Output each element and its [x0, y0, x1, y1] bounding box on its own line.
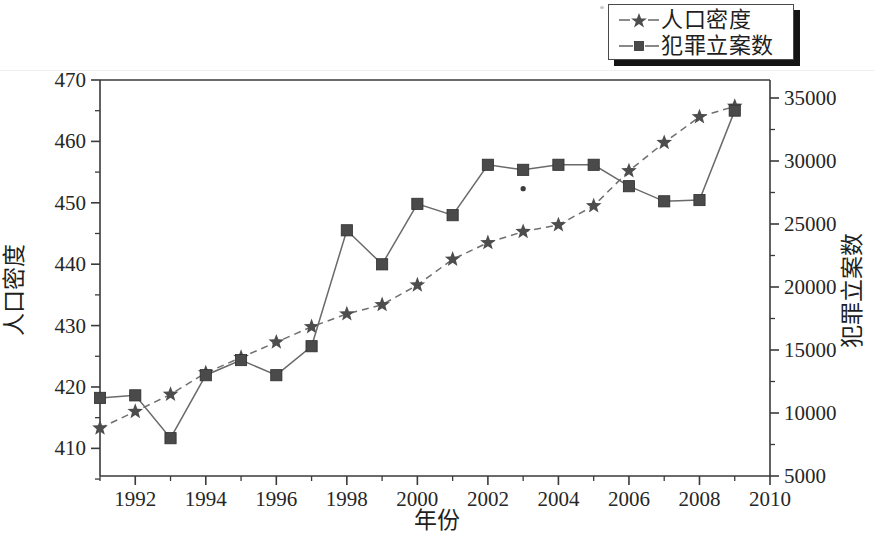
x-tick-label: 2010 — [749, 487, 791, 511]
data-point-square — [729, 105, 740, 116]
data-point-square — [341, 225, 352, 236]
data-point-square — [588, 159, 599, 170]
x-tick-label: 1996 — [255, 487, 297, 511]
series-line-crime-cases — [100, 111, 735, 439]
y-axis-title-right: 犯罪立案数 — [840, 233, 865, 348]
y-tick-label: 460 — [55, 129, 87, 153]
axes — [100, 80, 770, 476]
stray-dot — [521, 186, 526, 191]
y2-tick-label: 30000 — [784, 149, 837, 173]
data-point-square — [623, 181, 634, 192]
data-point-square — [553, 159, 564, 170]
data-point-square — [377, 259, 388, 270]
data-point-square — [694, 194, 705, 205]
data-point-star — [656, 134, 672, 149]
x-tick-label: 2002 — [467, 487, 509, 511]
data-point-star — [163, 386, 179, 401]
y2-tick-label: 5000 — [784, 464, 826, 488]
data-point-square — [200, 370, 211, 381]
y2-tick-label: 35000 — [784, 86, 837, 110]
data-point-square — [412, 198, 423, 209]
data-point-square — [482, 159, 493, 170]
dual-axis-line-chart: 4104204304404504604705000100001500020000… — [0, 0, 874, 536]
y-tick-label: 410 — [55, 436, 87, 460]
data-point-square — [518, 164, 529, 175]
axis-tick-labels: 4104204304404504604705000100001500020000… — [55, 68, 837, 511]
data-point-square — [130, 390, 141, 401]
data-point-star — [127, 403, 143, 418]
x-tick-label: 1992 — [114, 487, 156, 511]
legend: 人口密度 犯罪立案数 — [608, 4, 794, 60]
x-tick-label: 2008 — [678, 487, 720, 511]
x-tick-label: 1998 — [326, 487, 368, 511]
data-point-square — [165, 433, 176, 444]
y2-tick-label: 15000 — [784, 338, 837, 362]
series-line-population-density — [100, 106, 735, 428]
chart-canvas: 4104204304404504604705000100001500020000… — [0, 0, 874, 536]
x-tick-label: 2006 — [608, 487, 650, 511]
y2-tick-label: 25000 — [784, 212, 837, 236]
data-point-square — [94, 392, 105, 403]
legend-item-population-density[interactable]: 人口密度 — [609, 7, 793, 33]
data-point-star — [269, 334, 285, 349]
x-axis-title: 年份 — [414, 508, 460, 533]
axis-ticks — [91, 80, 779, 485]
legend-label-crime-cases: 犯罪立案数 — [661, 35, 774, 57]
data-point-star — [515, 223, 531, 238]
y-tick-label: 470 — [55, 68, 87, 92]
data-point-star — [339, 306, 355, 321]
data-point-star — [621, 163, 637, 178]
legend-box: 人口密度 犯罪立案数 — [608, 4, 794, 60]
square-marker-icon — [617, 36, 661, 56]
x-tick-label: 1994 — [185, 487, 228, 511]
x-tick-label: 2004 — [537, 487, 580, 511]
data-series — [92, 98, 742, 444]
y2-tick-label: 10000 — [784, 401, 837, 425]
data-point-star — [480, 235, 496, 250]
y-axis-title-left: 人口密度 — [2, 244, 27, 336]
y-tick-label: 420 — [55, 375, 87, 399]
data-point-star — [374, 297, 390, 312]
data-point-square — [235, 354, 246, 365]
data-point-star — [410, 277, 426, 292]
legend-label-population-density: 人口密度 — [661, 9, 751, 31]
y-tick-label: 430 — [55, 314, 87, 338]
data-point-square — [271, 370, 282, 381]
y2-tick-label: 20000 — [784, 275, 837, 299]
data-point-square — [659, 196, 670, 207]
annotations — [521, 186, 526, 191]
legend-item-crime-cases[interactable]: 犯罪立案数 — [609, 33, 793, 59]
y-tick-label: 440 — [55, 252, 87, 276]
y-tick-label: 450 — [55, 191, 87, 215]
star-marker-icon — [617, 10, 661, 30]
data-point-square — [306, 341, 317, 352]
data-point-star — [551, 217, 567, 232]
data-point-square — [447, 210, 458, 221]
